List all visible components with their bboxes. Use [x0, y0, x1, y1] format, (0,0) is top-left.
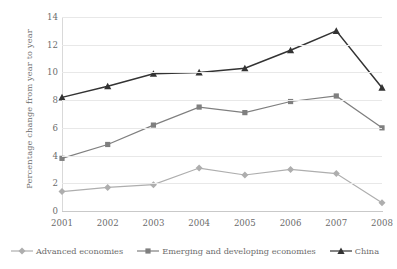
gridline [62, 156, 382, 157]
x-axis-line [62, 211, 383, 212]
gridline [62, 72, 382, 73]
y-axis-tick-label: 12 [36, 40, 58, 50]
data-point-marker [333, 170, 340, 177]
x-axis-tick-label: 2001 [40, 218, 84, 228]
legend-marker-triangle-icon [330, 246, 352, 256]
chart-legend: Advanced economiesEmerging and developin… [0, 246, 390, 256]
x-axis-tick-label: 2007 [314, 218, 358, 228]
data-point-marker [197, 104, 202, 109]
y-axis-tick-label: 6 [36, 123, 58, 133]
legend-item[interactable]: China [330, 246, 379, 256]
legend-marker-square-icon [137, 246, 159, 256]
data-point-marker [334, 93, 339, 98]
gridline [62, 100, 382, 101]
y-axis-tick-label: 14 [36, 12, 58, 22]
y-axis-tick-label: 0 [36, 206, 58, 216]
series-advanced-economies [59, 165, 386, 207]
data-point-marker [333, 27, 340, 34]
legend-marker-diamond-icon [11, 246, 33, 256]
gridline [62, 45, 382, 46]
gridline [62, 17, 382, 18]
legend-item[interactable]: Emerging and developing economies [137, 246, 316, 256]
data-point-marker [196, 165, 203, 172]
gridline [62, 128, 382, 129]
series-layer [62, 17, 382, 211]
legend-label: China [355, 246, 379, 256]
legend-label: Emerging and developing economies [162, 246, 316, 256]
legend-label: Advanced economies [36, 246, 123, 256]
data-point-marker [105, 142, 110, 147]
plot-area [62, 17, 382, 211]
data-point-marker [59, 188, 66, 195]
data-point-marker [150, 181, 157, 188]
x-axis-tick-labels: 20012002200320042005200620072008 [62, 218, 383, 232]
y-axis-tick-label: 8 [36, 95, 58, 105]
gridline [62, 183, 382, 184]
x-axis-tick-label: 2008 [360, 218, 397, 228]
y-axis-tick-label: 2 [36, 178, 58, 188]
x-axis-tick-label: 2003 [131, 218, 175, 228]
y-axis-tick-labels: 02468101214 [32, 17, 58, 211]
y-axis-tick-label: 10 [36, 67, 58, 77]
y-axis-tick-label: 4 [36, 151, 58, 161]
x-axis-tick-label: 2002 [86, 218, 130, 228]
x-axis-tick-label: 2004 [177, 218, 221, 228]
x-axis-tick-label: 2005 [223, 218, 267, 228]
data-point-marker [104, 184, 111, 191]
data-point-marker [379, 199, 386, 206]
series-china [58, 27, 385, 100]
legend-item[interactable]: Advanced economies [11, 246, 123, 256]
data-point-marker [241, 171, 248, 178]
x-axis-tick-label: 2006 [269, 218, 313, 228]
data-point-marker [287, 166, 294, 173]
data-point-marker [242, 110, 247, 115]
